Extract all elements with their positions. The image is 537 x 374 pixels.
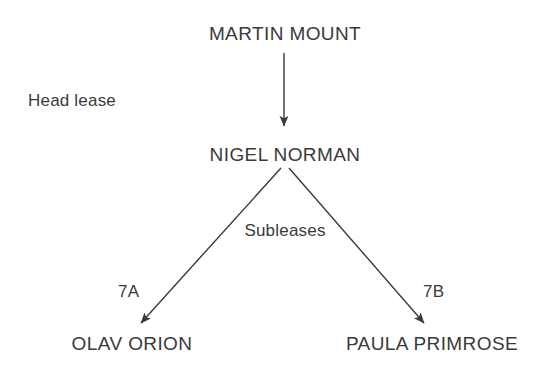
node-martin-mount: MARTIN MOUNT [209,24,361,43]
edge-label-head-lease: Head lease [28,92,116,109]
sublease-7a-arrow [141,168,281,323]
node-nigel-norman: NIGEL NORMAN [210,145,361,164]
lease-hierarchy-diagram: MARTIN MOUNT NIGEL NORMAN OLAV ORION PAU… [0,0,537,374]
sublease-7b-arrow [289,168,424,323]
edge-label-subleases: Subleases [244,222,325,239]
diagram-edges-layer [0,0,537,374]
node-paula-primrose: PAULA PRIMROSE [346,334,518,353]
edge-label-lease-7a: 7A [118,283,139,300]
node-olav-orion: OLAV ORION [72,334,193,353]
edge-label-lease-7b: 7B [423,283,444,300]
